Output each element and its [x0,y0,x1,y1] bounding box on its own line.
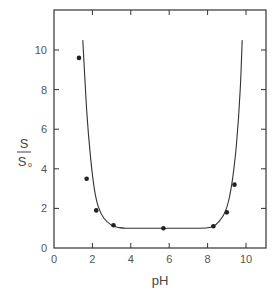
x-tick-label: 4 [128,253,134,265]
y-axis-label: S S o [17,136,32,169]
y-tick-label: 4 [41,163,47,175]
x-tick-label: 8 [205,253,211,265]
data-point [94,208,99,213]
y-tick-label: 10 [35,44,47,56]
data-point [161,226,166,231]
y-tick-label: 2 [41,202,47,214]
y-tick-label: 0 [41,242,47,254]
data-point [84,176,89,181]
x-axis-label: pH [152,273,169,288]
x-tick-label: 0 [51,253,57,265]
axis-tick-labels: 02468100246810 [35,44,252,265]
y-tick-label: 8 [41,84,47,96]
y-label-denominator: S [18,154,27,169]
y-tick-label: 6 [41,123,47,135]
data-points [77,56,237,231]
fitted-curve [83,40,242,228]
data-point [211,224,216,229]
plot-frame [54,10,266,248]
data-point [111,223,116,228]
data-point [225,210,230,215]
x-tick-label: 2 [89,253,95,265]
chart: 02468100246810 pH S S o [0,0,273,301]
data-point [232,182,237,187]
data-point [77,56,82,61]
axis-ticks [54,10,266,248]
x-tick-label: 10 [240,253,252,265]
y-label-numerator: S [20,136,29,151]
x-tick-label: 6 [166,253,172,265]
y-label-subscript: o [28,161,32,168]
